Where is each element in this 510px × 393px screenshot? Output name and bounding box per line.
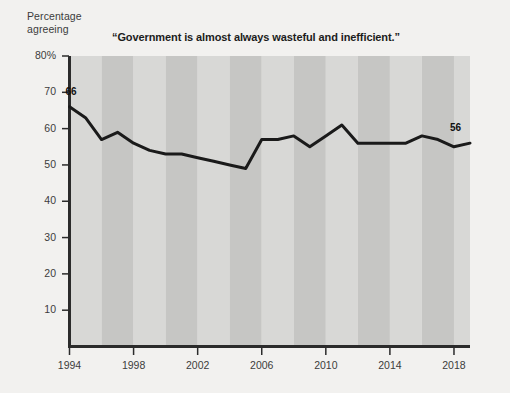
x-tick-marks bbox=[70, 347, 454, 355]
background-band bbox=[422, 56, 454, 347]
background-band bbox=[294, 56, 326, 347]
background-bands bbox=[70, 56, 471, 347]
x-tick-label: 2006 bbox=[242, 359, 282, 371]
background-band bbox=[70, 56, 102, 347]
x-tick-label: 2002 bbox=[178, 359, 218, 371]
background-band bbox=[230, 56, 262, 347]
chart-figure: Percentage agreeing “Government is almos… bbox=[0, 0, 510, 393]
background-band bbox=[358, 56, 390, 347]
y-tick-label: 20 bbox=[22, 267, 56, 279]
background-band bbox=[102, 56, 134, 347]
background-band bbox=[262, 56, 294, 347]
background-band bbox=[166, 56, 198, 347]
y-tick-label: 60 bbox=[22, 122, 56, 134]
x-tick-label: 1998 bbox=[114, 359, 154, 371]
y-tick-label: 40 bbox=[22, 194, 56, 206]
background-band bbox=[454, 56, 470, 347]
y-tick-label: 10 bbox=[22, 303, 56, 315]
y-tick-label: 70 bbox=[22, 85, 56, 97]
start-point-label: 66 bbox=[66, 86, 77, 97]
plot-area bbox=[0, 0, 510, 393]
background-band bbox=[198, 56, 230, 347]
y-tick-label: 80% bbox=[22, 49, 56, 61]
x-tick-label: 2014 bbox=[370, 359, 410, 371]
end-point-label: 56 bbox=[450, 122, 461, 133]
y-tick-label: 30 bbox=[22, 231, 56, 243]
y-tick-label: 50 bbox=[22, 158, 56, 170]
background-band bbox=[134, 56, 166, 347]
x-tick-label: 2018 bbox=[434, 359, 474, 371]
background-band bbox=[326, 56, 358, 347]
x-tick-label: 1994 bbox=[50, 359, 90, 371]
background-band bbox=[390, 56, 422, 347]
x-tick-label: 2010 bbox=[306, 359, 346, 371]
